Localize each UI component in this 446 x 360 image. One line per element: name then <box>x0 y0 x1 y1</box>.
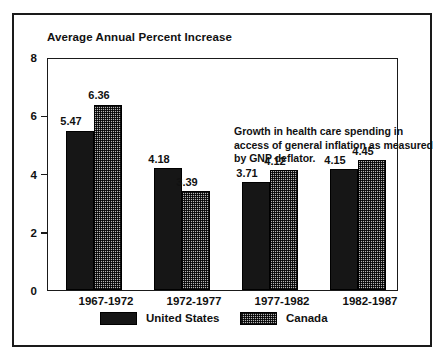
legend-label-united-states: United States <box>146 312 220 324</box>
value-label-us-1967-1972: 5.47 <box>51 115 91 127</box>
bar-us-1977-1982 <box>242 182 270 290</box>
x-label-1967-1972: 1967-1972 <box>65 295 147 307</box>
value-label-canada-1972-1977: 3.39 <box>167 176 207 188</box>
x-label-1982-1987: 1982-1987 <box>329 295 411 307</box>
legend-swatch-united-states-icon <box>100 312 137 325</box>
bar-canada-1972-1977 <box>182 191 210 290</box>
legend-label-canada: Canada <box>286 312 328 324</box>
x-label-1977-1982: 1977-1982 <box>241 295 323 307</box>
value-label-canada-1982-1987: 4.45 <box>343 145 383 157</box>
y-tick-label-2: 2 <box>31 225 37 241</box>
bar-canada-1982-1987 <box>358 160 386 290</box>
y-tick-label-8: 8 <box>31 50 37 66</box>
legend-swatch-canada-icon <box>240 312 277 325</box>
chart-title: Average Annual Percent Increase <box>47 31 232 43</box>
y-tick-label-0: 0 <box>31 283 37 299</box>
value-label-us-1972-1977: 4.18 <box>139 153 179 165</box>
x-label-1972-1977: 1972-1977 <box>153 295 235 307</box>
bar-canada-1967-1972 <box>94 105 122 290</box>
y-tick-label-6: 6 <box>31 108 37 124</box>
y-tick-label-4: 4 <box>31 167 37 183</box>
value-label-canada-1967-1972: 6.36 <box>79 89 119 101</box>
value-label-canada-1977-1982: 4.12 <box>255 155 295 167</box>
bar-us-1967-1972 <box>66 131 94 290</box>
bar-us-1982-1987 <box>330 169 358 290</box>
bar-canada-1977-1982 <box>270 170 298 290</box>
value-label-us-1977-1982: 3.71 <box>227 167 267 179</box>
legend-entry-united-states: United States <box>100 309 220 327</box>
legend-entry-canada: Canada <box>240 309 328 327</box>
chart-figure: Average Annual Percent Increase 8 6 4 2 … <box>0 0 446 360</box>
